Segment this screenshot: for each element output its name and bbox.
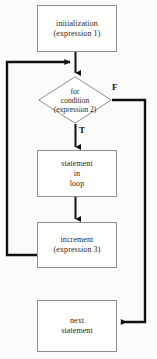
node-increment-label: increment (expression 3) [54, 235, 101, 255]
node-initialization: initialization (expression 1) [37, 5, 117, 52]
branch-label-true: T [79, 125, 85, 135]
node-next-statement-label: next statement [61, 316, 93, 336]
wire-condition-false-to-next [112, 100, 145, 322]
flowchart-canvas: initialization (expression 1) for condit… [0, 0, 157, 359]
diamond-shape [38, 76, 112, 124]
node-condition: for condition (expression 2) [38, 76, 112, 124]
node-initialization-label: initialization (expression 1) [54, 19, 101, 39]
node-statement: statement in loop [37, 150, 117, 197]
node-increment: increment (expression 3) [37, 222, 117, 268]
node-next-statement: next statement [37, 300, 117, 352]
node-statement-label: statement in loop [61, 159, 93, 189]
branch-label-false: F [112, 82, 118, 92]
